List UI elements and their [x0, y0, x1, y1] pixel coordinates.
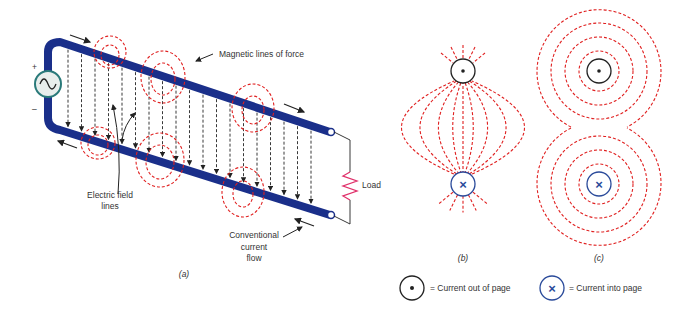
current-flow-label-1: Conventional: [229, 230, 279, 240]
field-line: [468, 195, 476, 211]
current-arrow-top-left: [70, 35, 90, 42]
field-line: [465, 81, 474, 174]
current-into-page-icon: ×: [451, 172, 475, 196]
legend-out-of-page-icon: [400, 276, 424, 300]
magnetic-lines-label: Magnetic lines of force: [219, 49, 304, 59]
electric-field-label-2: lines: [101, 201, 118, 211]
field-line: [473, 192, 487, 204]
minus-sign: –: [32, 104, 37, 114]
load-label: Load: [362, 180, 381, 190]
legend-into-page-label: = Current into page: [569, 283, 642, 293]
panel-b: × (b): [402, 45, 525, 263]
field-line: [467, 81, 488, 174]
current-out-of-page-icon: [587, 59, 611, 83]
current-out-of-page-icon: [451, 59, 475, 83]
current-flow-label-2: current: [241, 242, 268, 252]
caption-b: (b): [458, 253, 469, 263]
caption-c: (c): [594, 253, 604, 263]
plus-sign: +: [32, 62, 37, 72]
field-line: [468, 47, 475, 60]
bottom-conductor-end: [328, 212, 335, 219]
current-arrow-top-right: [284, 104, 304, 112]
current-arrow-bottom-left: [58, 141, 77, 148]
field-line: [441, 53, 453, 63]
current-flow-pointer: [283, 227, 302, 237]
electric-pointer-2: [122, 113, 135, 140]
ac-source-icon: [35, 71, 61, 97]
field-line: [473, 53, 485, 63]
svg-text:×: ×: [459, 177, 467, 192]
field-line: [472, 81, 525, 174]
load-resistor-icon: [343, 172, 357, 200]
legend: = Current out of page × = Current into p…: [400, 276, 642, 300]
panel-c-field-lines: [537, 10, 661, 246]
field-line: [438, 81, 459, 174]
field-line: [453, 81, 462, 174]
caption-a: (a): [179, 269, 190, 279]
electric-field-label-1: Electric field: [87, 190, 133, 200]
top-conductor-end: [328, 129, 335, 136]
current-flow-label-3: flow: [246, 253, 262, 263]
field-line: [451, 47, 458, 60]
legend-out-of-page-label: = Current out of page: [430, 283, 511, 293]
svg-text:×: ×: [548, 281, 556, 296]
electric-field-lines: [68, 50, 311, 203]
field-line: [439, 192, 453, 204]
transmission-line-diagram: + – Load Magnetic lines of force Electri…: [0, 0, 695, 318]
panel-c: × (c): [537, 10, 661, 263]
magnetic-pointer: [196, 54, 213, 61]
current-arrow-bottom-right: [295, 219, 314, 226]
svg-text:×: ×: [595, 177, 603, 192]
legend-into-page-icon: ×: [540, 276, 564, 300]
field-line: [402, 81, 455, 174]
field-line: [450, 195, 458, 211]
current-into-page-icon: ×: [587, 172, 611, 196]
panel-a: + – Load Magnetic lines of force Electri…: [32, 35, 381, 279]
